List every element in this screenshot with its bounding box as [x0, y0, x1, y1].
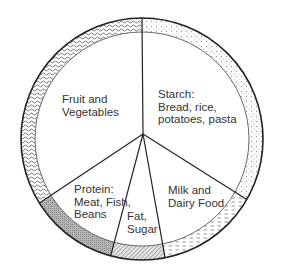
label-line: Dairy Food: [168, 197, 224, 210]
label-line: potatoes, pasta: [158, 113, 237, 126]
label-line: Protein:: [74, 183, 131, 196]
label-line: Beans: [74, 208, 131, 221]
label-starch: Starch: Bread, rice, potatoes, pasta: [158, 88, 237, 126]
label-line: Meat, Fish,: [74, 196, 131, 209]
food-pie-chart: [0, 0, 283, 278]
label-fat-sugar: Fat, Sugar: [127, 210, 158, 235]
label-line: Starch:: [158, 88, 237, 101]
label-line: Vegetables: [62, 106, 119, 119]
label-line: Milk and: [168, 184, 224, 197]
label-line: Sugar: [127, 223, 158, 236]
label-fruit-vegetables: Fruit and Vegetables: [62, 93, 119, 118]
label-milk-dairy: Milk and Dairy Food: [168, 184, 224, 209]
label-protein: Protein: Meat, Fish, Beans: [74, 183, 131, 221]
label-line: Bread, rice,: [158, 101, 237, 114]
label-line: Fruit and: [62, 93, 119, 106]
label-line: Fat,: [127, 210, 158, 223]
